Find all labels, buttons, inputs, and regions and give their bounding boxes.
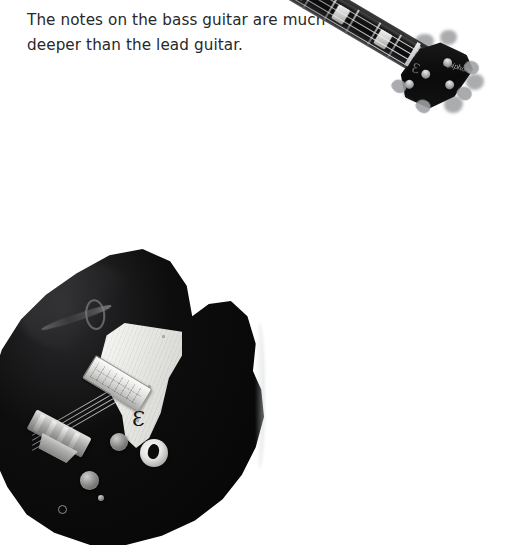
output-jack [140, 439, 168, 467]
tone-knob [80, 471, 99, 490]
guitar-body: Ɛ [0, 243, 264, 548]
pickguard-epiphone-logo: Ɛ [132, 409, 145, 430]
pickguard-screw [162, 335, 165, 338]
f-hole-curl [84, 298, 107, 331]
strap-button [58, 505, 67, 514]
string [182, 0, 441, 72]
body-rim-highlight [255, 322, 265, 468]
volume-knob [110, 433, 128, 451]
control-knob [98, 495, 104, 501]
